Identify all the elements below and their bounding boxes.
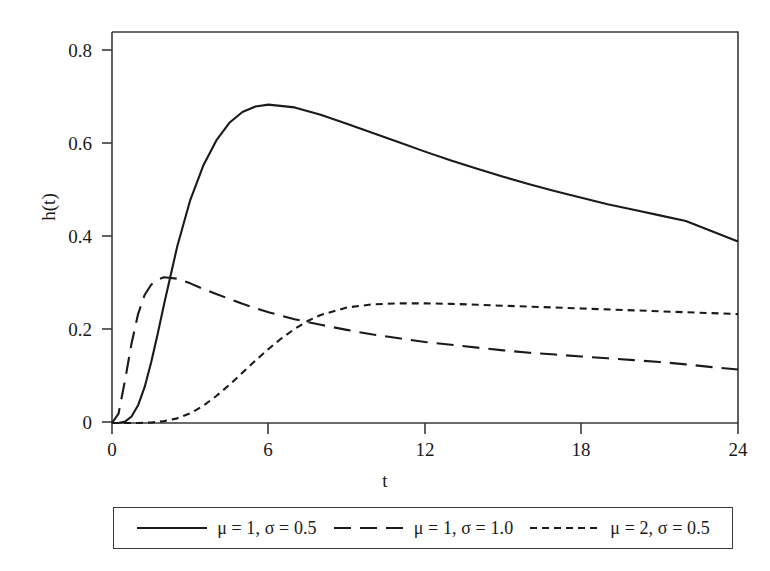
legend: μ = 1, σ = 0.5μ = 1, σ = 1.0μ = 2, σ = 0… [113, 507, 733, 549]
x-tick-label-18: 18 [551, 440, 611, 459]
legend-entry-1[interactable]: μ = 1, σ = 0.5 [136, 518, 317, 539]
legend-line-sample-2 [333, 521, 405, 535]
figure-container: 0.8 0.6 0.4 0.2 0 0 6 12 18 24 t h(t) μ … [0, 0, 770, 571]
x-axis-ticks [112, 423, 738, 434]
data-series-layer [112, 105, 738, 423]
x-tick-label-0: 0 [82, 440, 142, 459]
axes-frame [112, 32, 738, 423]
x-tick-label-12: 12 [395, 440, 455, 459]
legend-label-2: μ = 1, σ = 1.0 [414, 518, 514, 539]
y-tick-label-0.8: 0.8 [30, 41, 92, 60]
legend-line-sample-1 [136, 521, 208, 535]
series-line-2 [112, 277, 738, 423]
y-tick-label-0.6: 0.6 [30, 134, 92, 153]
legend-entry-3[interactable]: μ = 2, σ = 0.5 [529, 518, 710, 539]
legend-line-sample-3 [529, 521, 601, 535]
series-line-1 [112, 105, 738, 423]
x-tick-label-24: 24 [708, 440, 768, 459]
y-tick-label-0: 0 [30, 413, 92, 432]
legend-entries: μ = 1, σ = 0.5μ = 1, σ = 1.0μ = 2, σ = 0… [114, 508, 732, 548]
y-axis-label: h(t) [38, 172, 60, 242]
legend-entry-2[interactable]: μ = 1, σ = 1.0 [333, 518, 514, 539]
y-tick-label-0.2: 0.2 [30, 320, 92, 339]
y-axis-ticks [102, 50, 112, 422]
plot-frame [112, 32, 738, 423]
legend-label-3: μ = 2, σ = 0.5 [610, 518, 710, 539]
x-tick-label-6: 6 [238, 440, 298, 459]
legend-label-1: μ = 1, σ = 0.5 [217, 518, 317, 539]
series-line-3 [112, 303, 738, 423]
x-axis-label: t [0, 470, 770, 492]
